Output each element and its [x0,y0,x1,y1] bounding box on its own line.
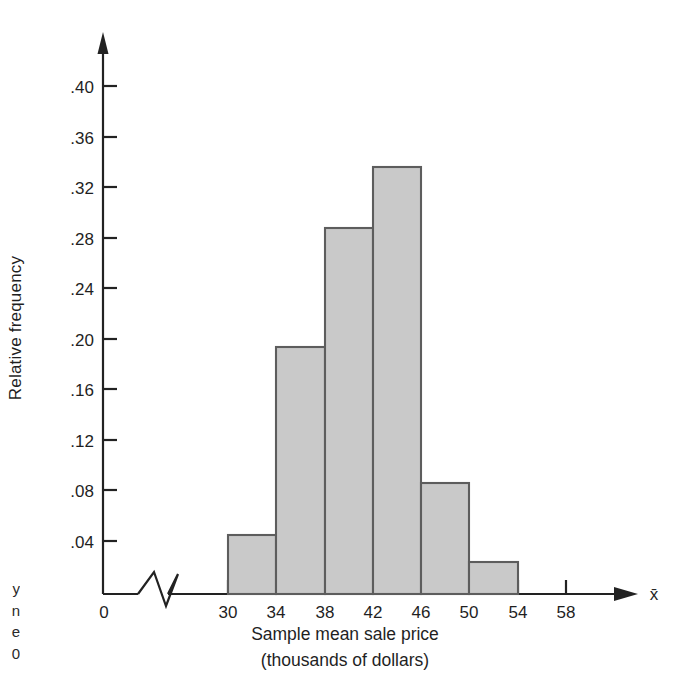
table-row [228,535,276,594]
table-row [469,562,518,594]
x-tick-label-30: 30 [219,603,238,622]
y-tick-label-004: .04 [70,533,94,552]
table-row [325,228,373,594]
x-tick-label-54: 54 [509,603,528,622]
y-tick-label-032: .32 [70,179,94,198]
x-axis-label: Sample mean sale price (thousands of dol… [120,621,570,673]
x-tick-label-58: 58 [557,603,576,622]
x-tick-label-38: 38 [316,603,335,622]
histogram-figure: .40 .36 .32 .28 .24 .20 .16 .12 .08 .04 [0,0,684,692]
y-tick-label-028: .28 [70,230,94,249]
y-tick-label-024: .24 [70,280,94,299]
y-tick-label-016: .16 [70,381,94,400]
margin-text-line-2: n [0,600,20,622]
x-tick-label-34: 34 [267,603,286,622]
x-axis-variable-symbol: x̄ [650,585,659,604]
margin-text-fragment: y n e 0 [0,578,20,684]
x-tick-label-42: 42 [364,603,383,622]
margin-text-line-1: y [0,578,20,600]
table-row [276,347,325,594]
margin-text-line-3: e [0,621,20,643]
y-tick-label-020: .20 [70,331,94,350]
y-tick-label-040: .40 [70,78,94,97]
table-row [421,483,469,594]
table-row [373,167,421,594]
y-tick-label-008: .08 [70,482,94,501]
x-axis-label-line1: Sample mean sale price [120,621,570,647]
relative-frequency-histogram: .40 .36 .32 .28 .24 .20 .16 .12 .08 .04 [0,0,684,692]
x-tick-label-0: 0 [99,603,108,622]
margin-text-line-4: 0 [0,643,20,665]
x-tick-label-50: 50 [460,603,479,622]
x-tick-label-46: 46 [412,603,431,622]
y-axis-label: Relative frequency [6,178,26,478]
y-tick-label-036: .36 [70,129,94,148]
x-axis-label-line2: (thousands of dollars) [120,647,570,673]
y-tick-label-012: .12 [70,432,94,451]
